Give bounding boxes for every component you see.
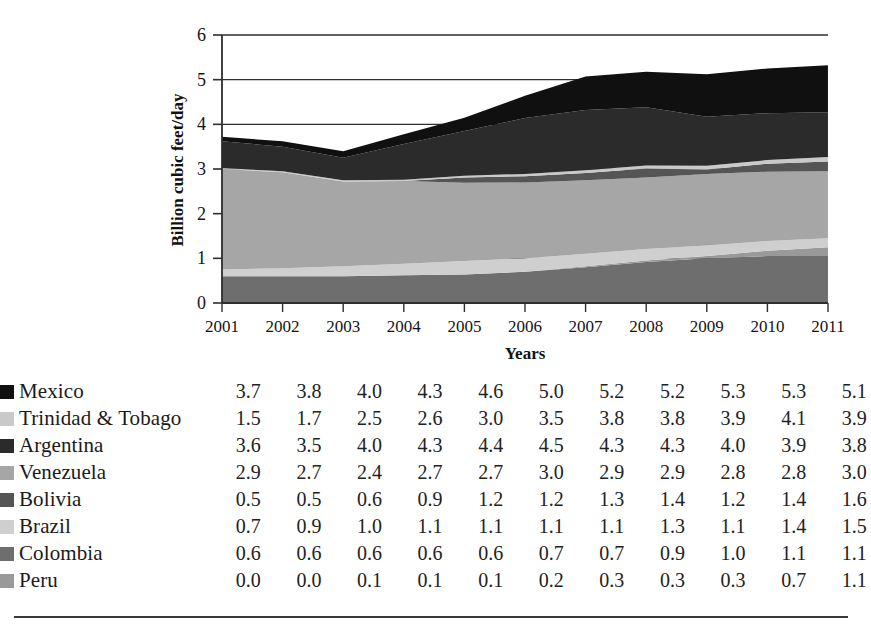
data-value-cell: 0.5 bbox=[218, 486, 279, 513]
data-value-cell: 0.7 bbox=[763, 567, 824, 594]
data-value-cell: 5.2 bbox=[642, 378, 703, 405]
legend-swatch-icon bbox=[0, 493, 14, 507]
data-value-cell: 2.8 bbox=[703, 459, 764, 486]
data-value-cell: 1.4 bbox=[763, 513, 824, 540]
legend-swatch-icon bbox=[0, 574, 14, 588]
x-tick-label: 2001 bbox=[205, 317, 239, 336]
legend-entry: Bolivia bbox=[0, 486, 218, 513]
data-value-cell: 1.2 bbox=[703, 486, 764, 513]
legend-swatch-icon bbox=[0, 385, 14, 399]
data-value-cell: 0.9 bbox=[642, 540, 703, 567]
series-name: Bolivia bbox=[19, 487, 82, 511]
series-name: Colombia bbox=[19, 541, 103, 565]
data-value-cell: 3.9 bbox=[703, 405, 764, 432]
data-value-cell: 1.1 bbox=[824, 540, 871, 567]
data-value-cell: 4.3 bbox=[642, 432, 703, 459]
legend-entry: Venezuela bbox=[0, 459, 218, 486]
legend-entry: Mexico bbox=[0, 378, 218, 405]
data-value-cell: 1.3 bbox=[582, 486, 643, 513]
series-name: Trinidad & Tobago bbox=[19, 406, 181, 430]
data-value-cell: 1.1 bbox=[703, 513, 764, 540]
data-value-cell: 4.1 bbox=[763, 405, 824, 432]
data-value-cell: 2.5 bbox=[339, 405, 400, 432]
table-row: Venezuela2.92.72.42.72.73.02.92.92.82.83… bbox=[0, 459, 871, 486]
data-value-cell: 1.5 bbox=[218, 405, 279, 432]
data-value-cell: 0.7 bbox=[521, 540, 582, 567]
data-value-cell: 3.5 bbox=[279, 432, 340, 459]
data-value-cell: 0.5 bbox=[279, 486, 340, 513]
data-value-cell: 3.9 bbox=[763, 432, 824, 459]
data-value-cell: 0.2 bbox=[521, 567, 582, 594]
x-tick-label: 2007 bbox=[569, 317, 604, 336]
data-value-cell: 3.9 bbox=[824, 405, 871, 432]
data-value-cell: 0.3 bbox=[642, 567, 703, 594]
data-value-cell: 1.4 bbox=[642, 486, 703, 513]
data-value-cell: 4.3 bbox=[400, 432, 461, 459]
y-tick-label: 0 bbox=[197, 293, 206, 313]
data-value-cell: 1.0 bbox=[339, 513, 400, 540]
data-value-cell: 1.1 bbox=[460, 513, 521, 540]
legend-swatch-icon bbox=[0, 547, 14, 561]
data-value-cell: 2.9 bbox=[642, 459, 703, 486]
x-tick-label: 2011 bbox=[811, 317, 844, 336]
data-value-cell: 0.9 bbox=[400, 486, 461, 513]
data-value-cell: 0.3 bbox=[703, 567, 764, 594]
data-value-cell: 2.6 bbox=[400, 405, 461, 432]
series-name: Brazil bbox=[19, 514, 71, 538]
data-value-cell: 2.4 bbox=[339, 459, 400, 486]
legend-swatch-icon bbox=[0, 466, 14, 480]
data-value-cell: 0.6 bbox=[279, 540, 340, 567]
data-value-cell: 3.0 bbox=[460, 405, 521, 432]
data-value-cell: 2.7 bbox=[400, 459, 461, 486]
data-value-cell: 5.3 bbox=[703, 378, 764, 405]
data-value-cell: 2.7 bbox=[279, 459, 340, 486]
data-value-cell: 0.6 bbox=[400, 540, 461, 567]
x-tick-label: 2002 bbox=[266, 317, 300, 336]
data-value-cell: 1.5 bbox=[824, 513, 871, 540]
data-value-cell: 1.7 bbox=[279, 405, 340, 432]
y-tick-label: 1 bbox=[197, 248, 206, 268]
x-axis-ticks bbox=[222, 303, 828, 312]
data-value-cell: 2.9 bbox=[582, 459, 643, 486]
legend-entry: Trinidad & Tobago bbox=[0, 405, 218, 432]
data-value-cell: 0.0 bbox=[279, 567, 340, 594]
table-row: Brazil0.70.91.01.11.11.11.11.31.11.41.5 bbox=[0, 513, 871, 540]
y-tick-label: 3 bbox=[197, 159, 206, 179]
series-name: Argentina bbox=[19, 433, 104, 457]
data-value-cell: 2.9 bbox=[218, 459, 279, 486]
data-value-cell: 1.4 bbox=[763, 486, 824, 513]
chart-canvas: Billion cubic feet/day 0123456 200120022… bbox=[0, 0, 862, 372]
data-value-cell: 3.5 bbox=[521, 405, 582, 432]
data-value-cell: 5.3 bbox=[763, 378, 824, 405]
data-value-cell: 3.6 bbox=[218, 432, 279, 459]
series-name: Peru bbox=[19, 568, 58, 592]
data-value-cell: 1.0 bbox=[703, 540, 764, 567]
area-series-group bbox=[222, 65, 828, 303]
x-tick-label: 2008 bbox=[629, 317, 663, 336]
data-value-cell: 3.0 bbox=[521, 459, 582, 486]
stacked-area-chart: Billion cubic feet/day 0123456 200120022… bbox=[0, 0, 862, 372]
data-value-cell: 1.2 bbox=[521, 486, 582, 513]
y-axis-title: Billion cubic feet/day bbox=[168, 93, 187, 247]
data-value-cell: 2.8 bbox=[763, 459, 824, 486]
data-value-cell: 2.7 bbox=[460, 459, 521, 486]
data-value-cell: 0.1 bbox=[339, 567, 400, 594]
legend-entry: Argentina bbox=[0, 432, 218, 459]
data-value-cell: 0.6 bbox=[339, 540, 400, 567]
legend-entry: Colombia bbox=[0, 540, 218, 567]
data-value-cell: 1.1 bbox=[824, 567, 871, 594]
legend-swatch-icon bbox=[0, 520, 14, 534]
legend-and-data-table: Mexico3.73.84.04.34.65.05.25.25.35.35.1T… bbox=[0, 378, 862, 637]
table-row: Argentina3.63.54.04.34.44.54.34.34.03.93… bbox=[0, 432, 871, 459]
x-tick-label: 2006 bbox=[508, 317, 542, 336]
legend-swatch-icon bbox=[0, 439, 14, 453]
series-value-table: Mexico3.73.84.04.34.65.05.25.25.35.35.1T… bbox=[0, 378, 871, 594]
data-value-cell: 4.0 bbox=[703, 432, 764, 459]
series-name: Venezuela bbox=[19, 460, 106, 484]
data-value-cell: 4.3 bbox=[582, 432, 643, 459]
x-axis-title: Years bbox=[505, 344, 546, 363]
y-tick-label: 6 bbox=[197, 25, 206, 45]
data-value-cell: 0.9 bbox=[279, 513, 340, 540]
data-value-cell: 0.6 bbox=[339, 486, 400, 513]
data-value-cell: 3.8 bbox=[582, 405, 643, 432]
